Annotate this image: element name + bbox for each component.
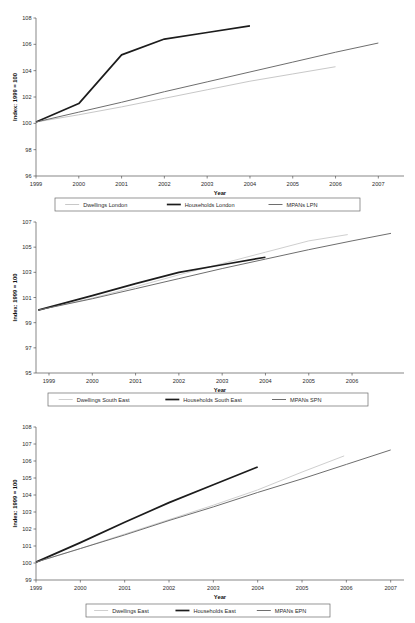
y-tick-label: 103 <box>22 269 31 275</box>
x-tick-label: 2002 <box>163 585 175 591</box>
y-tick-label: 99 <box>25 577 31 583</box>
y-tick-label: 101 <box>22 295 31 301</box>
y-tick-label: 102 <box>22 526 31 532</box>
legend-label: Households South East <box>183 397 242 403</box>
series-line <box>36 26 250 122</box>
y-tick-label: 101 <box>22 543 31 549</box>
y-tick-label: 107 <box>22 441 31 447</box>
y-tick-label: 102 <box>22 94 31 100</box>
chart-london: 9698100102104106108199920002001200220032… <box>0 0 415 215</box>
y-tick-label: 108 <box>22 424 31 430</box>
x-tick-label: 2007 <box>384 585 396 591</box>
y-tick-label: 96 <box>25 173 31 179</box>
chart-svg-south-east: 9597991011031051071999200020012002200320… <box>0 215 415 413</box>
x-tick-label: 2001 <box>129 378 141 384</box>
x-tick-label: 2004 <box>244 181 256 187</box>
y-tick-label: 99 <box>25 320 31 326</box>
x-tick-label: 2001 <box>118 585 130 591</box>
x-tick-label: 2005 <box>296 585 308 591</box>
x-tick-label: 2002 <box>173 378 185 384</box>
y-tick-label: 98 <box>25 147 31 153</box>
x-tick-label: 2000 <box>73 181 85 187</box>
series-line <box>36 43 378 122</box>
x-tick-label: 1999 <box>30 585 42 591</box>
legend-label: Households East <box>193 608 236 614</box>
chart-svg-east: 9910010110210310410510610710819992000200… <box>0 413 415 623</box>
y-tick-label: 100 <box>22 560 31 566</box>
x-tick-label: 2005 <box>303 378 315 384</box>
x-tick-label: 1999 <box>30 181 42 187</box>
x-tick-label: 2006 <box>340 585 352 591</box>
y-tick-label: 106 <box>22 458 31 464</box>
legend-label: MPANs SPN <box>290 397 322 403</box>
chart-south-east: 9597991011031051071999200020012002200320… <box>0 215 415 413</box>
y-tick-label: 105 <box>22 244 31 250</box>
x-tick-label: 2004 <box>259 378 271 384</box>
series-line <box>38 233 391 310</box>
x-axis-title: Year <box>214 190 227 196</box>
legend-label: MPANs LPN <box>287 202 318 208</box>
x-tick-label: 1999 <box>43 378 55 384</box>
x-tick-label: 2006 <box>329 181 341 187</box>
y-tick-label: 95 <box>25 370 31 376</box>
y-tick-label: 100 <box>22 120 31 126</box>
x-tick-label: 2005 <box>287 181 299 187</box>
series-line <box>36 450 391 562</box>
chart-svg-london: 9698100102104106108199920002001200220032… <box>0 0 415 215</box>
series-line <box>36 467 258 562</box>
y-tick-label: 107 <box>22 219 31 225</box>
y-axis-title: Index: 1999 = 100 <box>12 274 18 322</box>
legend-label: Dwellings London <box>83 202 127 208</box>
x-tick-label: 2000 <box>86 378 98 384</box>
x-axis-title: Year <box>214 594 227 600</box>
series-line <box>36 67 336 122</box>
charts-page: 9698100102104106108199920002001200220032… <box>0 0 415 623</box>
y-tick-label: 103 <box>22 509 31 515</box>
x-tick-label: 2002 <box>158 181 170 187</box>
x-tick-label: 2003 <box>216 378 228 384</box>
x-tick-label: 2006 <box>346 378 358 384</box>
y-tick-label: 104 <box>22 492 31 498</box>
x-tick-label: 2004 <box>251 585 263 591</box>
x-tick-label: 2003 <box>207 585 219 591</box>
y-tick-label: 108 <box>22 15 31 21</box>
series-line <box>38 235 348 311</box>
x-tick-label: 2007 <box>372 181 384 187</box>
legend-label: MPANs EPN <box>275 608 307 614</box>
x-tick-label: 2003 <box>201 181 213 187</box>
x-tick-label: 2000 <box>74 585 86 591</box>
legend-label: Dwellings East <box>112 608 149 614</box>
legend-label: Households London <box>185 202 235 208</box>
legend-label: Dwellings South East <box>77 397 130 403</box>
y-axis-title: Index: 1999 = 100 <box>12 73 18 121</box>
x-axis-title: Year <box>214 387 227 393</box>
series-line <box>36 456 344 562</box>
y-tick-label: 97 <box>25 345 31 351</box>
y-tick-label: 105 <box>22 475 31 481</box>
x-tick-label: 2001 <box>115 181 127 187</box>
y-tick-label: 106 <box>22 41 31 47</box>
y-tick-label: 104 <box>22 68 31 74</box>
y-axis-title: Index: 1999 = 100 <box>12 480 18 528</box>
chart-east: 9910010110210310410510610710819992000200… <box>0 413 415 623</box>
